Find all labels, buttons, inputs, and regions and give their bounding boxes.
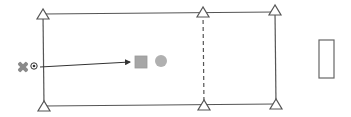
player-icon (17, 61, 28, 72)
circle-marker (155, 55, 167, 67)
square-marker (135, 56, 147, 68)
cone-icon (269, 5, 281, 15)
goal (319, 40, 334, 78)
dashed-middle-line (203, 13, 204, 105)
drill-diagram (0, 0, 351, 117)
pass-arrow (40, 62, 130, 67)
top-line (43, 12, 275, 14)
left-line (43, 14, 44, 106)
right-line (275, 12, 276, 104)
bottom-line (44, 104, 276, 106)
ball-icon (31, 63, 37, 69)
